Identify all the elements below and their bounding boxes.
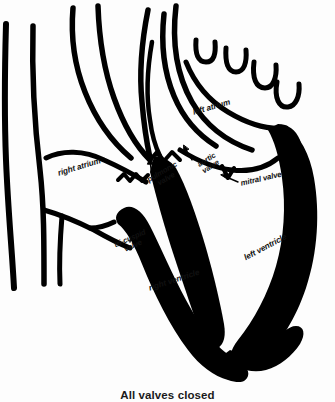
heart-diagram-figure: right atrium left atrium pulmonic valve … bbox=[0, 0, 335, 402]
heart-anatomy-drawing bbox=[0, 0, 335, 402]
figure-caption: All valves closed bbox=[0, 389, 335, 401]
inferior-vena-cava-line bbox=[60, 216, 62, 284]
